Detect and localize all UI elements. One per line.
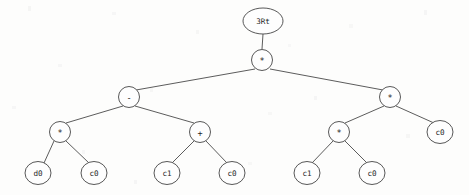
tree-edge: [206, 141, 227, 163]
tree-edge: [262, 34, 263, 49]
tree-node-d0[interactable]: d0: [25, 162, 51, 185]
tree-node-plus[interactable]: +: [190, 122, 211, 143]
tree-node-star[interactable]: *: [329, 122, 350, 143]
node-label: c0: [227, 169, 237, 178]
tree-node-c1[interactable]: c1: [294, 162, 320, 185]
tree-node-star[interactable]: *: [380, 87, 401, 108]
tree-edge: [136, 69, 255, 90]
tree-canvas: 3Rt*-**+*c0d0c0c1c0c1c0: [0, 0, 469, 195]
expression-tree-diagram: 3Rt*-**+*c0d0c0c1c0c1c0: [0, 0, 469, 195]
tree-edge: [396, 106, 434, 123]
tree-edge: [312, 141, 333, 163]
edges-layer: [44, 34, 434, 163]
node-label: *: [387, 93, 392, 103]
node-label: -: [126, 93, 131, 103]
node-label: c1: [162, 169, 172, 178]
tree-edge: [135, 106, 194, 123]
tree-node-c1[interactable]: c1: [154, 162, 180, 185]
node-label: *: [259, 56, 264, 66]
node-label: 3Rt: [256, 17, 270, 26]
nodes-layer: 3Rt*-**+*c0d0c0c1c0c1c0: [25, 8, 453, 185]
tree-node-3Rt[interactable]: 3Rt: [243, 8, 283, 34]
tree-edge: [345, 106, 384, 123]
tree-edge: [345, 141, 367, 163]
tree-edge: [270, 69, 383, 90]
tree-node-star[interactable]: *: [50, 122, 71, 143]
tree-edge: [44, 141, 54, 163]
node-label: c0: [367, 169, 377, 178]
tree-node-c0[interactable]: c0: [359, 162, 385, 185]
tree-node-c0[interactable]: c0: [219, 162, 245, 185]
tree-node-minus[interactable]: -: [119, 87, 140, 108]
node-label: *: [336, 128, 341, 138]
node-label: c1: [302, 169, 312, 178]
tree-edge: [172, 141, 194, 163]
tree-edge: [66, 141, 89, 163]
node-label: d0: [33, 169, 43, 178]
tree-node-c0[interactable]: c0: [427, 121, 453, 144]
node-label: +: [197, 128, 202, 138]
tree-edge: [66, 106, 123, 123]
node-label: c0: [89, 169, 99, 178]
tree-node-star[interactable]: *: [252, 50, 273, 71]
node-label: *: [57, 128, 62, 138]
node-label: c0: [435, 128, 445, 137]
tree-node-c0[interactable]: c0: [81, 162, 107, 185]
